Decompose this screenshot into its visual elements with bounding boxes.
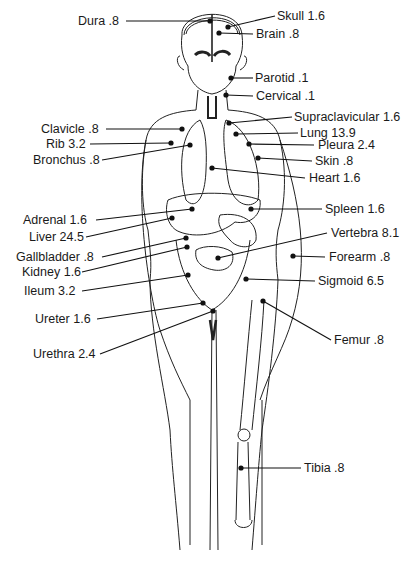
label-bronchus: Bronchus .8 [33,153,100,167]
anatomy-diagram: Dura .8Skull 1.6Brain .8Parotid .1Cervic… [0,0,415,561]
site-dot-vertebra [215,255,220,260]
site-dot-adrenal [189,206,194,211]
label-forearm: Forearm .8 [329,250,390,264]
site-dot-spleen [248,206,253,211]
leader-line-rib [90,143,171,144]
site-dot-parotid [228,75,233,80]
leader-line-kidney [82,247,187,272]
site-dot-forearm [290,253,295,258]
label-brain: Brain .8 [256,27,299,41]
label-urethra: Urethra 2.4 [33,347,96,361]
leader-line-heart [212,168,305,178]
site-dot-kidney [184,244,189,249]
leader-line-adrenal [96,209,192,220]
site-dot-brain [216,30,221,35]
site-dot-sigmoid [243,276,248,281]
leader-line-lung [236,133,298,134]
site-dot-femur [260,298,265,303]
leader-line-skin [258,158,312,161]
leader-line-brain [219,33,253,34]
site-dot-rib [168,140,173,145]
site-dot-lung [233,131,238,136]
site-dot-ileum [185,272,190,277]
label-rib: Rib 3.2 [46,137,86,151]
label-sigmoid: Sigmoid 6.5 [318,274,384,288]
label-parotid: Parotid .1 [255,71,309,85]
label-skull: Skull 1.6 [277,9,325,23]
site-dot-liver [169,215,174,220]
site-dot-cervical [223,92,228,97]
label-cervical: Cervical .1 [256,89,315,103]
site-dot-skin [255,155,260,160]
site-dot-skull [225,24,230,29]
label-liver: Liver 24.5 [29,230,84,244]
leader-line-femur [263,301,331,340]
leader-line-liver [86,218,172,237]
label-adrenal: Adrenal 1.6 [23,213,87,227]
label-tibia: Tibia .8 [304,461,345,475]
leader-line-ileum [82,275,188,291]
leader-line-bronchus [102,145,190,160]
site-dot-pleura [246,141,251,146]
site-dot-dura [207,18,212,23]
site-dot-supraclavicular [226,120,231,125]
label-pleura: Pleura 2.4 [318,138,375,152]
label-heart: Heart 1.6 [309,171,360,185]
leader-line-pleura [249,144,314,145]
leader-line-ureter [97,303,203,319]
leader-line-cervical [226,95,253,96]
site-dot-bronchus [187,142,192,147]
label-dura: Dura .8 [78,14,119,28]
leader-line-vertebra [218,233,327,258]
leader-line-urethra [100,311,213,354]
label-ileum: Ileum 3.2 [24,284,75,298]
site-dot-heart [209,165,214,170]
label-femur: Femur .8 [334,333,384,347]
label-spleen: Spleen 1.6 [325,202,385,216]
leader-line-supraclavicular [229,117,292,123]
leader-line-skull [228,16,275,27]
site-dot-clavicle [179,126,184,131]
label-clavicle: Clavicle .8 [41,122,99,136]
label-vertebra: Vertebra 8.1 [331,226,399,240]
label-kidney: Kidney 1.6 [22,265,81,279]
site-dot-ureter [200,300,205,305]
label-skin: Skin .8 [315,154,353,168]
site-dot-gallbladder [183,235,188,240]
leader-line-gallbladder [102,238,186,257]
site-dot-urethra [210,308,215,313]
label-supraclavicular: Supraclavicular 1.6 [294,110,400,124]
site-dot-tibia [238,465,243,470]
leader-line-forearm [293,256,325,257]
leader-line-sigmoid [246,279,315,281]
label-ureter: Ureter 1.6 [35,312,91,326]
label-gallbladder: Gallbladder .8 [16,250,94,264]
